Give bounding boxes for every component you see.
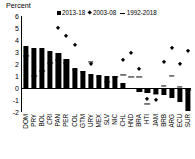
diamond-marker-JAM (153, 98, 158, 103)
chart-column: HND (127, 16, 135, 112)
chart-column: NIC (111, 16, 119, 112)
x-tick-SLV: SLV (104, 114, 110, 125)
bar-GTM (80, 71, 85, 88)
x-tick-HND: HND (128, 114, 134, 128)
bar-PRY (32, 48, 37, 88)
dash-marker-PRY (31, 75, 37, 76)
bar-PER (64, 59, 69, 88)
chart-column: PAN (54, 16, 62, 112)
dash-marker-COL (72, 69, 78, 70)
chart-figure: Percent 2013-18 2003-08 1992-2018 654321… (0, 0, 195, 159)
chart-column: DOM (22, 16, 30, 112)
y-tick--2: -2 (13, 109, 19, 116)
bar-SUR (185, 88, 190, 111)
dash-marker-CRI (48, 62, 54, 63)
x-tick-BRA: BRA (136, 114, 142, 127)
chart-column: JAM (151, 16, 159, 112)
diamond-marker-BRB (161, 59, 166, 64)
y-tick-5: 5 (15, 25, 19, 32)
y-tick-2: 2 (15, 61, 19, 68)
x-tick-CRI: CRI (47, 114, 53, 125)
chart-column: CRI (46, 16, 54, 112)
dash-marker-JAM (153, 93, 159, 94)
chart-column: SUR (184, 16, 192, 112)
bar-BRA (137, 88, 142, 92)
x-tick-PER: PER (63, 114, 69, 127)
dash-marker-BRA (137, 77, 143, 78)
diamond-marker-ARG (169, 46, 174, 51)
x-tick-DOM: DOM (23, 114, 29, 129)
y-axis-label: Percent (6, 2, 31, 9)
y-tick-6: 6 (15, 13, 19, 20)
dash-marker-PER (64, 62, 70, 63)
bar-CRI (48, 51, 53, 88)
dash-marker-ECU (177, 86, 183, 87)
dash-marker-URY (88, 61, 94, 62)
bar-BOL (40, 48, 45, 88)
dash-marker-DOM (23, 55, 29, 56)
dash-marker-PAN (56, 60, 62, 61)
square-marker-icon (57, 11, 61, 15)
bar-NIC (112, 76, 117, 88)
diamond-marker-icon (88, 11, 93, 16)
dash-marker-MEX (96, 77, 102, 78)
chart-column: BRA (135, 16, 143, 112)
diamond-marker-PAN (56, 26, 61, 31)
dash-marker-BRB (161, 85, 167, 86)
x-tick-ECU: ECU (177, 114, 183, 127)
chart-column: PRY (30, 16, 38, 112)
chart-column: ARG (168, 16, 176, 112)
chart-column: SLV (103, 16, 111, 112)
diamond-marker-ECU (178, 62, 183, 67)
bar-HTI (145, 88, 150, 93)
dash-marker-GTM (80, 72, 86, 73)
x-tick-CHL: CHL (120, 114, 126, 127)
y-tick--1: -1 (13, 97, 19, 104)
diamond-marker-PER (64, 34, 69, 39)
x-tick-ARG: ARG (169, 114, 175, 128)
diamond-marker-URY (89, 62, 94, 67)
y-tick-4: 4 (15, 37, 19, 44)
dash-marker-BOL (39, 71, 45, 72)
x-tick-JAM: JAM (152, 114, 158, 126)
bar-CHL (121, 83, 126, 88)
bar-DOM (23, 46, 28, 88)
x-tick-PRY: PRY (31, 114, 37, 127)
y-tick-0: 0 (15, 85, 19, 92)
x-tick-URY: URY (88, 114, 94, 127)
x-tick-PAN: PAN (55, 114, 61, 126)
chart-column: URY (87, 16, 95, 112)
chart-column: GTM (79, 16, 87, 112)
bar-HND (129, 88, 134, 89)
chart-column: CHL (119, 16, 127, 112)
dash-marker-ARG (169, 75, 175, 76)
diamond-marker-COL (72, 43, 77, 48)
bar-ARG (169, 88, 174, 98)
chart-column: COL (71, 16, 79, 112)
diamond-marker-CHL (121, 58, 126, 63)
x-tick-HTI: HTI (144, 114, 150, 124)
chart-column: BRB (160, 16, 168, 112)
y-tick-3: 3 (15, 49, 19, 56)
diamond-marker-HND (129, 51, 134, 56)
dash-marker-SLV (104, 81, 110, 82)
chart-column: BOL (38, 16, 46, 112)
dash-marker-HND (128, 77, 134, 78)
x-tick-COL: COL (71, 114, 77, 127)
x-tick-BRB: BRB (160, 114, 166, 127)
x-tick-MEX: MEX (96, 114, 102, 128)
bar-PAN (56, 53, 61, 88)
bar-ECU (177, 88, 182, 102)
chart-column: ECU (176, 16, 184, 112)
plot-area: 6543210-1-2 DOMPRYBOLCRIPANPERCOLGTMURYM… (21, 16, 191, 112)
x-tick-NIC: NIC (112, 114, 118, 125)
dash-marker-HTI (145, 103, 151, 104)
dash-marker-icon (120, 13, 125, 14)
dash-marker-CHL (120, 74, 126, 75)
x-tick-SUR: SUR (185, 114, 191, 127)
y-tick-1: 1 (15, 73, 19, 80)
diamond-marker-HTI (145, 97, 150, 102)
bar-URY (88, 74, 93, 88)
chart-column: MEX (95, 16, 103, 112)
x-tick-GTM: GTM (79, 114, 85, 128)
